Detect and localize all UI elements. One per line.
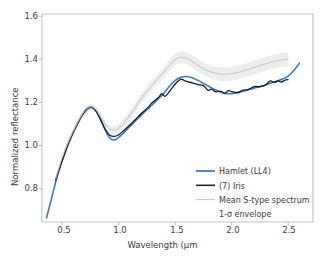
x-tick-label: 2.0	[218, 225, 248, 235]
legend-item-mean-stype[interactable]: Mean S-type spectrum	[219, 196, 310, 205]
x-axis-label: Wavelength (µm	[0, 240, 325, 250]
legend-item-iris[interactable]: (7) Iris	[219, 182, 245, 191]
x-tick-label: 0.5	[49, 225, 79, 235]
y-tick-label: 1.6	[14, 11, 38, 21]
x-tick-label: 2.5	[274, 225, 304, 235]
legend-item-hamlet[interactable]: Hamlet (LL4)	[219, 167, 271, 176]
legend-item-sigma-envelope[interactable]: 1-σ envelope	[219, 210, 271, 219]
chart-canvas	[0, 0, 325, 261]
x-tick-label: 1.0	[105, 225, 135, 235]
y-axis-label: Normalized reflectance	[10, 87, 20, 186]
x-tick-label: 1.5	[162, 225, 192, 235]
figure: 0.8 1.0 1.2 1.4 1.6 0.5 1.0 1.5 2.0 2.5 …	[0, 0, 325, 261]
axes-frame	[42, 14, 313, 222]
y-tick-label: 1.4	[14, 54, 38, 64]
